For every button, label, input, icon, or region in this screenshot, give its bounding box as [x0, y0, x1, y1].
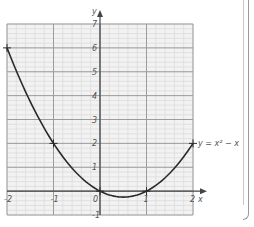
svg-text:x: x — [197, 195, 203, 204]
svg-text:6: 6 — [92, 44, 97, 53]
svg-text:0: 0 — [93, 195, 98, 204]
panel-border — [243, 0, 249, 220]
svg-text:1: 1 — [92, 163, 97, 172]
svg-text:-2: -2 — [4, 195, 12, 204]
svg-text:2: 2 — [190, 195, 195, 204]
svg-text:2: 2 — [92, 139, 97, 148]
svg-text:-1: -1 — [51, 195, 59, 204]
svg-text:3: 3 — [92, 116, 97, 125]
svg-text:-1: -1 — [92, 211, 100, 220]
svg-text:1: 1 — [144, 195, 149, 204]
svg-text:4: 4 — [92, 92, 97, 101]
equation-label: y = x² − x — [197, 139, 239, 148]
svg-text:5: 5 — [92, 68, 97, 77]
graph-plot: -2-1012-11234567xy y = x² − x — [0, 0, 254, 227]
svg-text:y: y — [91, 7, 97, 16]
